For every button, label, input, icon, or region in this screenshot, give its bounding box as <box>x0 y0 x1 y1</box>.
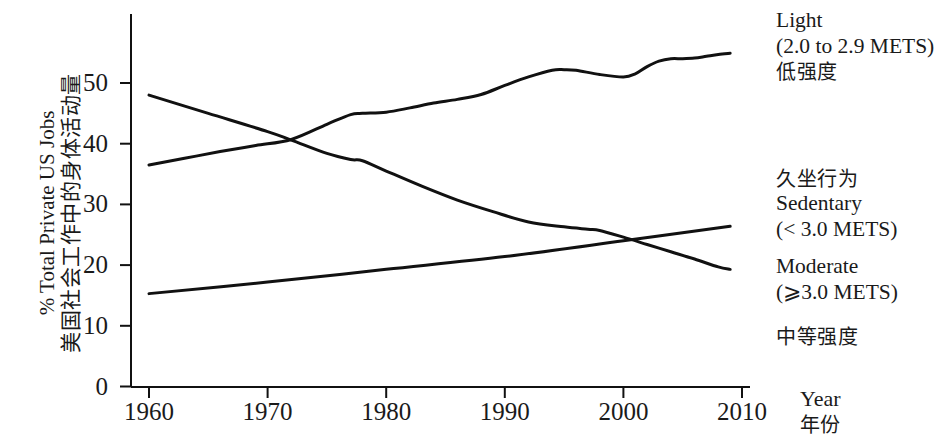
legend-sedentary-label: Sedentary <box>776 191 897 217</box>
series-line-moderate <box>149 226 730 293</box>
y-tick-label: 40 <box>62 131 108 156</box>
legend-light-mets: (2.0 to 2.9 METS) <box>776 34 934 60</box>
legend-moderate-mets: (⩾3.0 METS) <box>776 280 898 306</box>
legend-moderate-label: Moderate <box>776 254 898 280</box>
x-axis-title: Year 年份 <box>800 385 841 438</box>
legend-item-light: Light (2.0 to 2.9 METS) 低强度 <box>776 8 934 84</box>
legend-light-label-cn: 低强度 <box>776 60 934 84</box>
legend-item-moderate: Moderate (⩾3.0 METS) <box>776 254 898 306</box>
legend-sedentary-label-cn: 久坐行为 <box>776 167 897 191</box>
x-axis-title-cn: 年份 <box>800 413 841 438</box>
x-axis-ticks <box>149 387 742 398</box>
y-tick-label: 50 <box>62 70 108 95</box>
legend-item-moderate-cn: 中等强度 <box>776 325 858 349</box>
x-tick-label: 2000 <box>578 399 668 424</box>
y-tick-label: 20 <box>62 252 108 277</box>
x-tick-label: 2010 <box>697 399 787 424</box>
legend-light-label: Light <box>776 8 934 34</box>
data-series-group <box>149 53 730 293</box>
x-tick-label: 1990 <box>460 399 550 424</box>
series-line-sedentary <box>149 95 730 269</box>
x-tick-label: 1970 <box>223 399 313 424</box>
y-tick-label: 30 <box>62 191 108 216</box>
y-tick-label: 0 <box>62 374 108 399</box>
y-axis-ticks <box>120 83 131 387</box>
x-tick-label: 1980 <box>341 399 431 424</box>
y-tick-label: 10 <box>62 313 108 338</box>
legend-item-sedentary: 久坐行为 Sedentary (< 3.0 METS) <box>776 167 897 243</box>
x-tick-label: 1960 <box>104 399 194 424</box>
x-axis-title-en: Year <box>800 385 841 413</box>
series-line-light <box>149 53 730 165</box>
legend-moderate-label-cn: 中等强度 <box>776 325 858 349</box>
legend-sedentary-mets: (< 3.0 METS) <box>776 217 897 243</box>
